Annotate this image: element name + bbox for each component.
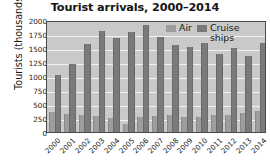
y-axis-tick: 1750: [21, 32, 47, 39]
bar-group: [137, 22, 147, 132]
bar-group: [93, 22, 103, 132]
bar: [84, 44, 91, 132]
y-axis-tick: 250: [21, 116, 47, 123]
bar: [113, 38, 120, 132]
bar-group: [49, 22, 59, 132]
bar: [157, 37, 164, 132]
bar-group: [64, 22, 74, 132]
legend-label-cruise-ships: Cruise ships: [210, 23, 244, 42]
chart-title: Tourist arrivals, 2000–2014: [0, 1, 270, 14]
bar: [172, 45, 179, 132]
legend-entry-air: Air: [166, 23, 192, 33]
bar: [260, 43, 266, 132]
chart-figure: Tourist arrivals, 2000–2014 Tourists (th…: [0, 0, 270, 162]
bar-group: [255, 22, 265, 132]
bar-group: [79, 22, 89, 132]
chart-legend: Air Cruise ships: [166, 23, 244, 42]
bar: [187, 47, 194, 132]
bar-group: [108, 22, 118, 132]
bar: [99, 31, 106, 132]
y-axis-tick: 1250: [21, 60, 47, 67]
bar: [143, 25, 150, 132]
y-axis-tick: 2000: [21, 18, 47, 25]
legend-swatch-cruise-ships-icon: [197, 25, 207, 32]
bar: [216, 54, 223, 132]
legend-label-air: Air: [179, 23, 192, 33]
y-axis-tick: 1500: [21, 46, 47, 53]
bar-group: [152, 22, 162, 132]
bar: [231, 48, 238, 132]
y-axis-tick: 0: [21, 130, 47, 137]
bar: [55, 75, 62, 132]
bar: [245, 56, 252, 132]
y-axis-tick: 500: [21, 102, 47, 109]
bar-group: [123, 22, 133, 132]
bar: [69, 64, 76, 132]
bar: [128, 32, 135, 132]
legend-swatch-air-icon: [166, 25, 176, 32]
y-axis-tick: 750: [21, 88, 47, 95]
bar: [201, 43, 208, 132]
y-axis-tick: 1000: [21, 74, 47, 81]
legend-entry-cruise-ships: Cruise ships: [197, 23, 244, 42]
